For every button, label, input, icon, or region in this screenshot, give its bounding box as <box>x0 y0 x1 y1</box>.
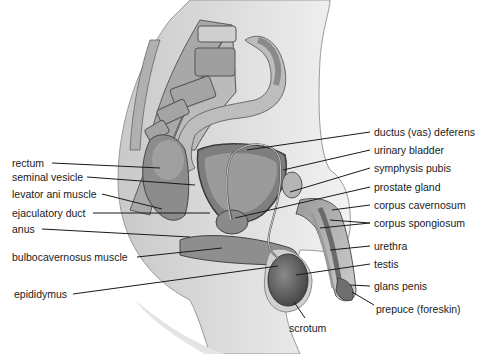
prostate-organ <box>216 210 248 234</box>
label-scrotum: scrotum <box>289 322 326 334</box>
label-ductus-vas-deferens: ductus (vas) deferens <box>374 126 475 138</box>
label-corpus-cavernosum: corpus cavernosum <box>374 199 466 211</box>
label-levator-ani-muscle: levator ani muscle <box>12 188 97 200</box>
label-prostate-gland: prostate gland <box>374 181 441 193</box>
label-corpus-spongiosum: corpus spongiosum <box>374 217 465 229</box>
anatomy-diagram: rectum seminal vesicle levator ani muscl… <box>0 0 492 354</box>
label-seminal-vesicle: seminal vesicle <box>12 171 83 183</box>
label-glans-penis: glans penis <box>374 280 427 292</box>
leader-line-prepuce-foreskin <box>352 292 374 305</box>
label-rectum: rectum <box>12 157 44 169</box>
label-symphysis-pubis: symphysis pubis <box>374 162 451 174</box>
scrotum-organ <box>264 249 312 312</box>
label-testis: testis <box>374 258 399 270</box>
label-epididymus: epididymus <box>14 288 67 300</box>
label-prepuce-foreskin: prepuce (foreskin) <box>376 303 461 315</box>
label-anus: anus <box>12 223 35 235</box>
label-ejaculatory-duct: ejaculatory duct <box>12 207 86 219</box>
symphysis-pubis-bone <box>282 172 302 198</box>
label-urinary-bladder: urinary bladder <box>374 144 444 156</box>
label-urethra: urethra <box>374 240 407 252</box>
label-bulbocavernosus-muscle: bulbocavernosus muscle <box>12 251 128 263</box>
